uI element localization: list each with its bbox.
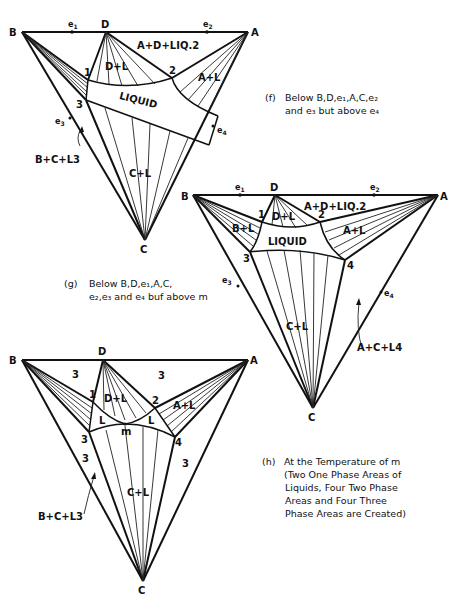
- h-label-b: B: [9, 355, 17, 366]
- h-3-c: [89, 432, 143, 581]
- g-caption-line-1: Below B,D,e₁,A,C,: [89, 278, 172, 289]
- g-e4-dot: [380, 291, 383, 294]
- g-region-al: A+L: [343, 225, 366, 236]
- f-e2-dot: [205, 30, 209, 34]
- h-arrow-head: [91, 472, 96, 479]
- f-arrow-bcl3: [78, 131, 80, 146]
- f-caption-line-2: and e₃ but above e₄: [285, 105, 379, 116]
- panel-h: B D A C 1 2 3 4 m 3 3 3 3 D+L A+L L L C+…: [9, 346, 406, 596]
- h-region-3-tr: 3: [158, 370, 165, 381]
- h-point-1: 1: [89, 389, 96, 400]
- f-point-1: 1: [84, 67, 91, 78]
- h-caption-line-1: At the Temperature of m: [284, 456, 400, 467]
- g-point-1: 1: [258, 209, 265, 220]
- h-label-c: C: [138, 585, 145, 596]
- f-e1-dot: [70, 30, 74, 34]
- h-d-tielines: [103, 360, 146, 420]
- g-liquid-top: [262, 222, 320, 227]
- h-region-3-tl: 3: [72, 369, 79, 380]
- f-e3-dot: [69, 117, 72, 120]
- f-caption-line-1: Below B,D,e₁,A,C,e₂: [285, 92, 378, 103]
- panel-g: B D A C e1 e2 e3 e4 1 2 3 4 A+D+LIQ.2 D+…: [64, 182, 448, 423]
- g-point-3: 3: [243, 253, 250, 264]
- h-label-d: D: [98, 346, 106, 357]
- g-label-e4: e4: [384, 289, 394, 299]
- g-4-c: [313, 260, 345, 408]
- g-caption-label: (g): [64, 278, 77, 289]
- f-label-b: B: [9, 27, 17, 38]
- f-label-c: C: [140, 244, 147, 255]
- f-point-3: 3: [76, 99, 83, 110]
- f-label-e3: e3: [55, 117, 65, 127]
- g-b-1: [193, 195, 262, 222]
- g-b-tielines: [193, 195, 260, 246]
- h-b-tielines: [22, 360, 92, 426]
- h-region-l-right: L: [148, 415, 155, 426]
- h-edge-ac: [143, 360, 248, 581]
- g-e2-dot: [372, 193, 376, 197]
- h-c-tielines: [106, 426, 158, 581]
- h-caption-line-4: Areas and Four Three: [285, 495, 387, 506]
- h-a-4: [175, 360, 248, 437]
- f-region-liquid: LIQUID: [118, 90, 158, 110]
- f-label-e1: e1: [68, 20, 78, 30]
- g-e3-dot: [237, 285, 240, 288]
- h-caption-line-5: Phase Areas are Created): [285, 508, 406, 519]
- g-region-dl: D+L: [272, 211, 296, 222]
- h-point-2: 2: [152, 395, 159, 406]
- g-caption-line-2: e₂,e₃ and e₄ buf above m: [89, 291, 208, 302]
- g-region-top: A+D+LIQ.2: [304, 201, 366, 212]
- f-region-top: A+D+LIQ.2: [137, 40, 199, 51]
- f-liquid-right-a: [172, 78, 218, 116]
- h-region-3-br: 3: [182, 458, 189, 469]
- h-region-3-bl: 3: [82, 453, 89, 464]
- f-label-e2: e2: [203, 20, 213, 30]
- f-label-a: A: [251, 27, 259, 38]
- g-point-4: 4: [347, 260, 354, 271]
- f-b-1: [22, 32, 88, 80]
- h-region-cl: C+L: [127, 487, 150, 498]
- g-label-a: A: [440, 191, 448, 202]
- h-region-al: A+L: [173, 400, 196, 411]
- f-e4-dot: [212, 125, 215, 128]
- g-label-e3: e3: [222, 276, 232, 286]
- phase-diagram-figure: B D A C e1 e2 e3 e4 1 2 3 A+D+LIQ.2 D+L …: [0, 0, 457, 597]
- g-e1-dot: [238, 193, 242, 197]
- g-region-cl: C+L: [286, 321, 309, 332]
- h-region-bcl3: B+C+L3: [38, 511, 83, 522]
- f-b-3: [22, 32, 86, 100]
- f-region-bcl3: B+C+L3: [35, 154, 80, 165]
- h-caption-line-2: (Two One Phase Areas of: [284, 469, 402, 480]
- g-region-bl: B+L: [232, 223, 255, 234]
- f-label-d: D: [101, 19, 109, 30]
- h-caption-line-3: Liquids, Four Two Phase: [285, 482, 398, 493]
- g-label-e2: e2: [370, 183, 380, 193]
- f-caption-label: (f): [265, 92, 276, 103]
- g-label-d: D: [270, 182, 278, 193]
- f-region-cl: C+L: [129, 168, 152, 179]
- h-4-c: [143, 437, 175, 581]
- h-point-3: 3: [81, 434, 88, 445]
- f-region-dl: D+L: [105, 61, 129, 72]
- h-label-a: A: [250, 355, 258, 366]
- g-region-acl4: A+C+L4: [357, 342, 402, 353]
- h-region-dl: D+L: [104, 393, 128, 404]
- h-caption-label: (h): [262, 456, 275, 467]
- f-label-e4: e4: [217, 126, 227, 136]
- h-region-l-left: L: [99, 415, 106, 426]
- g-label-e1: e1: [235, 183, 245, 193]
- h-a-2: [155, 360, 248, 408]
- g-liquid-bottom: [250, 250, 345, 260]
- f-liquid-top: [88, 78, 172, 86]
- g-label-b: B: [181, 191, 189, 202]
- f-point-2: 2: [169, 65, 176, 76]
- h-a-tielines: [159, 360, 248, 432]
- g-label-c: C: [308, 412, 315, 423]
- g-region-liquid: LIQUID: [268, 236, 307, 247]
- f-region-al: A+L: [198, 72, 221, 83]
- h-point-m: m: [121, 426, 131, 437]
- g-arrow-head: [356, 298, 361, 305]
- h-point-4: 4: [175, 437, 182, 448]
